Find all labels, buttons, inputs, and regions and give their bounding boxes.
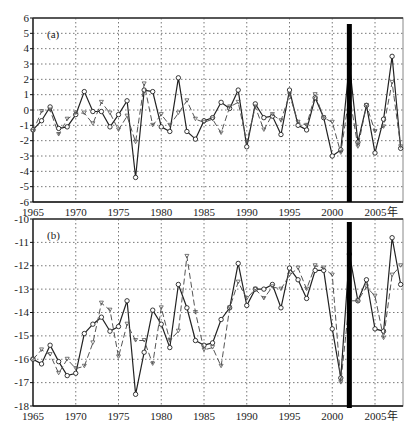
- circle-marker-icon: [313, 268, 317, 272]
- circle-marker-icon: [65, 373, 69, 377]
- circle-marker-icon: [262, 115, 266, 119]
- x-tick-label: 1995: [279, 410, 302, 422]
- circle-marker-icon: [168, 129, 172, 133]
- triangle-marker-icon: [399, 264, 403, 268]
- circle-marker-icon: [82, 89, 86, 93]
- circle-marker-icon: [159, 322, 163, 326]
- annotation-bar: [347, 222, 352, 408]
- annotation-bar: [347, 24, 352, 202]
- circle-marker-icon: [116, 112, 120, 116]
- circle-marker-icon: [287, 88, 291, 92]
- x-tick-label: 2000: [321, 410, 344, 422]
- x-tick-label: 1980: [150, 410, 173, 422]
- y-tick-label: 0: [24, 104, 30, 116]
- triangle-marker-icon: [91, 341, 95, 345]
- circle-marker-icon: [39, 119, 43, 123]
- triangle-marker-icon: [185, 254, 189, 258]
- circle-marker-icon: [390, 236, 394, 240]
- circle-marker-icon: [56, 359, 60, 363]
- observed-series-line: [33, 238, 401, 395]
- x-tick-label: 1985: [193, 410, 216, 422]
- circle-marker-icon: [39, 362, 43, 366]
- circle-marker-icon: [108, 125, 112, 129]
- simulated-series-line: [33, 82, 401, 152]
- circle-marker-icon: [304, 296, 308, 300]
- circle-marker-icon: [330, 154, 334, 158]
- x-tick-label: 1990: [236, 206, 259, 218]
- circle-marker-icon: [125, 299, 129, 303]
- circle-marker-icon: [236, 88, 240, 92]
- circle-marker-icon: [99, 315, 103, 319]
- circle-marker-icon: [193, 338, 197, 342]
- circle-marker-icon: [373, 327, 377, 331]
- y-tick-label: -1: [20, 119, 29, 131]
- circle-marker-icon: [133, 175, 137, 179]
- circle-marker-icon: [159, 125, 163, 129]
- observed-series-line: [33, 56, 401, 177]
- circle-marker-icon: [91, 322, 95, 326]
- y-tick-label: -10: [14, 213, 29, 225]
- circle-marker-icon: [99, 109, 103, 113]
- circle-marker-icon: [330, 327, 334, 331]
- circle-marker-icon: [82, 331, 86, 335]
- y-tick-label: 5: [24, 27, 30, 39]
- circle-marker-icon: [364, 278, 368, 282]
- y-tick-label: -4: [20, 165, 30, 177]
- x-tick-label: 1970: [65, 410, 88, 422]
- x-tick-label: 1980: [150, 206, 173, 218]
- x-tick-label: 1985: [193, 206, 216, 218]
- circle-marker-icon: [279, 306, 283, 310]
- circle-marker-icon: [398, 282, 402, 286]
- triangle-marker-icon: [390, 80, 394, 84]
- circle-marker-icon: [185, 306, 189, 310]
- x-tick-label: 2000: [321, 206, 344, 218]
- circle-marker-icon: [56, 126, 60, 130]
- circle-marker-icon: [176, 76, 180, 80]
- y-tick-label: -2: [20, 134, 29, 146]
- simulated-series-line: [33, 256, 401, 382]
- panel-label: (a): [47, 28, 60, 41]
- circle-marker-icon: [390, 54, 394, 58]
- triangle-marker-icon: [193, 117, 197, 121]
- panel-a: -6-5-4-3-2-10123456196519701975198019851…: [20, 12, 403, 219]
- y-tick-label: -5: [20, 180, 30, 192]
- circle-marker-icon: [151, 89, 155, 93]
- circle-marker-icon: [168, 345, 172, 349]
- circle-marker-icon: [65, 125, 69, 129]
- circle-marker-icon: [133, 392, 137, 396]
- circle-marker-icon: [373, 151, 377, 155]
- panel-b: -18-17-16-15-14-13-12-11-101965197019751…: [14, 213, 403, 423]
- y-tick-label: 1: [24, 88, 30, 100]
- triangle-marker-icon: [390, 273, 394, 277]
- x-tick-label: 1970: [65, 206, 88, 218]
- circle-marker-icon: [74, 371, 78, 375]
- two-panel-line-chart: -6-5-4-3-2-10123456196519701975198019851…: [0, 0, 410, 431]
- x-tick-label: 1965: [22, 410, 45, 422]
- y-tick-label: -15: [14, 329, 29, 341]
- circle-marker-icon: [219, 317, 223, 321]
- circle-marker-icon: [142, 350, 146, 354]
- triangle-marker-icon: [108, 111, 112, 115]
- circle-marker-icon: [304, 128, 308, 132]
- x-tick-label: 1975: [108, 206, 131, 218]
- circle-marker-icon: [185, 129, 189, 133]
- x-tick-label: 1975: [108, 410, 131, 422]
- circle-marker-icon: [48, 343, 52, 347]
- panel-label: (b): [47, 229, 60, 242]
- x-tick-label: 1990: [236, 410, 259, 422]
- y-tick-label: 2: [24, 73, 30, 85]
- circle-marker-icon: [296, 278, 300, 282]
- circle-marker-icon: [116, 324, 120, 328]
- y-tick-label: -11: [15, 236, 29, 248]
- circle-marker-icon: [219, 100, 223, 104]
- circle-marker-icon: [193, 137, 197, 141]
- circle-marker-icon: [279, 132, 283, 136]
- y-tick-label: -12: [14, 259, 29, 271]
- triangle-marker-icon: [57, 371, 61, 375]
- triangle-marker-icon: [91, 122, 95, 126]
- circle-marker-icon: [91, 109, 95, 113]
- triangle-marker-icon: [142, 82, 146, 86]
- y-tick-label: -14: [14, 306, 29, 318]
- circle-marker-icon: [245, 303, 249, 307]
- y-tick-label: 3: [24, 58, 30, 70]
